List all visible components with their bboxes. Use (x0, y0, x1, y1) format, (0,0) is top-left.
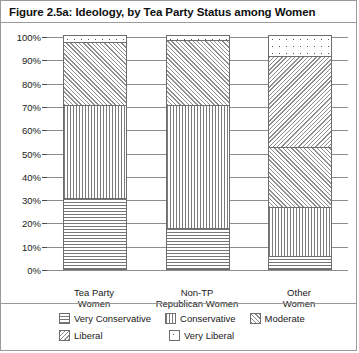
y-axis: 100%90%80%70%60%50%40%30%20%10%0% (1, 23, 47, 283)
legend-swatch-icon (59, 313, 70, 324)
y-axis-tick-label: 70% (22, 101, 41, 112)
y-axis-tick-label: 0% (27, 265, 41, 276)
bar-segment[interactable] (167, 106, 229, 229)
bar-segment[interactable] (167, 41, 229, 106)
figure-title-bar: Figure 2.5a: Ideology, by Tea Party Stat… (1, 1, 356, 23)
y-axis-tick-label: 60% (22, 125, 41, 136)
legend-label: Very Conservative (74, 313, 151, 324)
stacked-bar[interactable] (166, 35, 230, 270)
y-axis-tick-label: 20% (22, 218, 41, 229)
legend-swatch-icon (59, 330, 70, 341)
bar-segment[interactable] (64, 106, 126, 199)
legend-row-top: Very ConservativeConservativeModerate (1, 310, 356, 327)
bar-segment[interactable] (269, 36, 331, 57)
bar-segment[interactable] (64, 199, 126, 269)
bar-segment[interactable] (269, 57, 331, 148)
legend-item[interactable]: Moderate (250, 313, 305, 324)
legend-label: Liberal (74, 330, 103, 341)
bar-column (268, 35, 330, 270)
stacked-bar[interactable] (63, 35, 127, 270)
chart-legend: Very ConservativeConservativeModerate Li… (1, 303, 356, 350)
bar-segment[interactable] (269, 148, 331, 209)
bar-column (63, 35, 125, 270)
y-axis-tick-label: 90% (22, 55, 41, 66)
legend-item[interactable]: Conservative (165, 313, 235, 324)
figure-container: Figure 2.5a: Ideology, by Tea Party Stat… (0, 0, 357, 351)
y-axis-tick-label: 100% (17, 32, 41, 43)
legend-item[interactable]: Very Conservative (59, 313, 151, 324)
y-axis-tick-label: 80% (22, 78, 41, 89)
legend-label: Very Liberal (184, 330, 234, 341)
bar-segment[interactable] (269, 257, 331, 269)
y-axis-tick-label: 30% (22, 195, 41, 206)
bar-column (166, 35, 228, 270)
plot-area: 100%90%80%70%60%50%40%30%20%10%0% Tea Pa… (1, 23, 358, 283)
legend-swatch-icon (169, 330, 180, 341)
bar-segment[interactable] (64, 43, 126, 106)
legend-label: Conservative (180, 313, 235, 324)
legend-item[interactable]: Liberal (59, 330, 155, 341)
y-axis-tick-label: 40% (22, 171, 41, 182)
y-axis-tick-label: 50% (22, 148, 41, 159)
legend-row-bottom: LiberalVery Liberal (1, 327, 356, 344)
legend-swatch-icon (165, 313, 176, 324)
bar-segment[interactable] (269, 208, 331, 257)
bar-segment[interactable] (167, 229, 229, 269)
legend-swatch-icon (250, 313, 261, 324)
y-axis-tick-label: 10% (22, 241, 41, 252)
legend-item[interactable]: Very Liberal (169, 330, 234, 341)
bar-segment[interactable] (64, 36, 126, 43)
bar-group (47, 23, 348, 283)
page-title: Figure 2.5a: Ideology, by Tea Party Stat… (9, 6, 315, 18)
legend-label: Moderate (265, 313, 305, 324)
stacked-bar[interactable] (268, 35, 332, 270)
